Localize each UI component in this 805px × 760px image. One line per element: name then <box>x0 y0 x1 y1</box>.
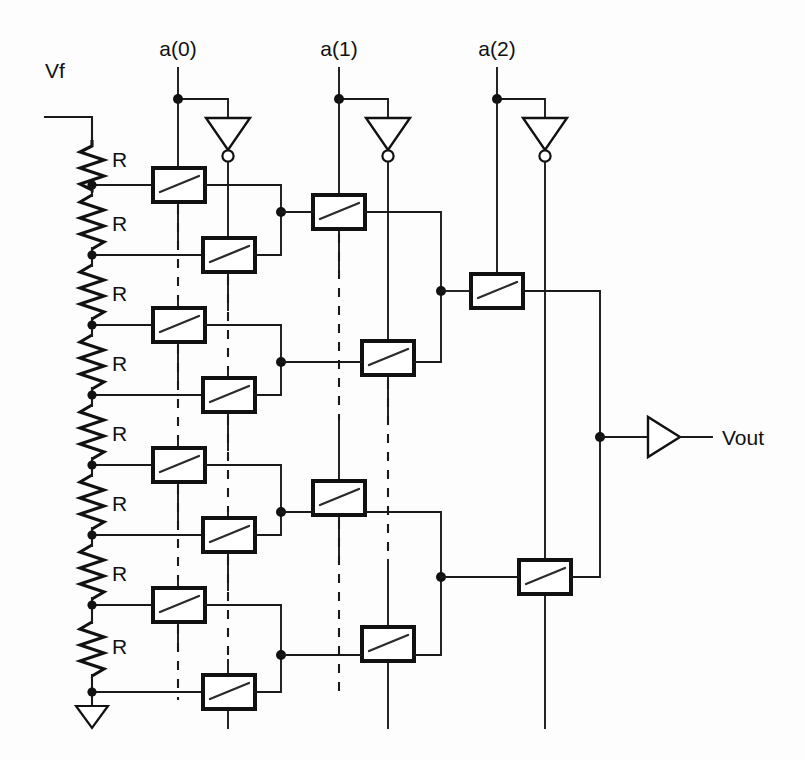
s1-merge-2b <box>414 577 441 655</box>
a2-inverter-bubble-icon <box>539 150 550 161</box>
stage-1-merge-wires <box>281 212 446 655</box>
vout-label: Vout <box>722 426 764 449</box>
resistor-label-2: R <box>112 212 127 235</box>
a1-to-inverter <box>339 99 388 117</box>
s0-merge-3b <box>255 512 281 535</box>
s0-merge-2b <box>255 362 281 395</box>
vf-lead <box>45 117 92 140</box>
switch-s0-1[interactable] <box>153 168 205 202</box>
junction-dot <box>87 530 96 539</box>
s0-merge-4a <box>205 605 281 655</box>
vf-label: Vf <box>45 59 65 82</box>
resistor-label-1: R <box>112 148 127 171</box>
resistor-8 <box>80 622 104 676</box>
switch-s0-6[interactable] <box>203 518 255 552</box>
resistor-4 <box>80 335 104 389</box>
switch-s1-3[interactable] <box>313 481 365 515</box>
s1-merge-1b <box>414 291 441 362</box>
resistor-label-3: R <box>112 282 127 305</box>
s2-merge-a <box>523 291 600 437</box>
switch-s0-5[interactable] <box>153 448 205 482</box>
s0-merge-3a <box>205 465 281 512</box>
switch-s1-1[interactable] <box>313 195 365 229</box>
s0-merge-1a <box>205 185 281 212</box>
switch-s0-8[interactable] <box>203 675 255 709</box>
resistor-label-6: R <box>112 492 127 515</box>
switch-s0-4[interactable] <box>203 378 255 412</box>
switch-s1-2[interactable] <box>362 341 414 375</box>
junction-dot <box>87 600 96 609</box>
stage-0-switches[interactable] <box>153 168 255 709</box>
a1-inverter-icon <box>366 118 410 150</box>
a0-label: a(0) <box>159 37 196 60</box>
resistor-label-5: R <box>112 422 127 445</box>
stage-2-control <box>492 68 567 728</box>
resistor-6 <box>80 475 104 529</box>
resistor-3 <box>80 265 104 319</box>
circuit-schematic-svg: R R R R R R R R <box>0 0 805 760</box>
junction-dot <box>87 180 96 189</box>
a1-inverter-bubble-icon <box>382 150 393 161</box>
resistor-ladder <box>45 117 108 728</box>
stage-2-switches[interactable] <box>471 274 571 594</box>
junction-dot <box>87 460 96 469</box>
switch-s0-7[interactable] <box>153 588 205 622</box>
a0-inverter-bubble-icon <box>222 150 233 161</box>
junction-dot <box>87 687 96 696</box>
output-buffer <box>600 417 712 457</box>
resistor-label-7: R <box>112 562 127 585</box>
switch-s0-2[interactable] <box>203 238 255 272</box>
s0-merge-1b <box>255 212 281 255</box>
switch-s0-3[interactable] <box>153 308 205 342</box>
s1-merge-2a <box>365 512 441 577</box>
a2-to-inverter <box>497 99 545 117</box>
a0-inverter-icon <box>206 118 250 150</box>
junction-dot <box>87 250 96 259</box>
ground-icon <box>76 706 108 728</box>
resistor-label-4: R <box>112 352 127 375</box>
stage-1-switches[interactable] <box>313 195 414 661</box>
switch-s1-4[interactable] <box>362 627 414 661</box>
output-buffer-icon <box>648 417 680 457</box>
switch-s2-1[interactable] <box>471 274 523 308</box>
schematic-canvas: R R R R R R R R <box>0 0 805 760</box>
s0-merge-2a <box>205 325 281 362</box>
a0-to-inverter <box>178 99 228 117</box>
stage-2-merge-wires <box>441 291 605 577</box>
a2-label: a(2) <box>478 37 515 60</box>
switch-s2-2[interactable] <box>519 560 571 594</box>
resistor-label-8: R <box>112 635 127 658</box>
s0-merge-4b <box>255 655 281 692</box>
junction-dot <box>87 390 96 399</box>
resistor-5 <box>80 405 104 459</box>
resistor-2 <box>80 195 104 249</box>
a2-inverter-icon <box>523 118 567 150</box>
s2-merge-b <box>571 437 600 577</box>
resistor-7 <box>80 545 104 599</box>
junction-dot <box>87 320 96 329</box>
a1-label: a(1) <box>320 37 357 60</box>
s1-merge-1a <box>365 212 441 291</box>
